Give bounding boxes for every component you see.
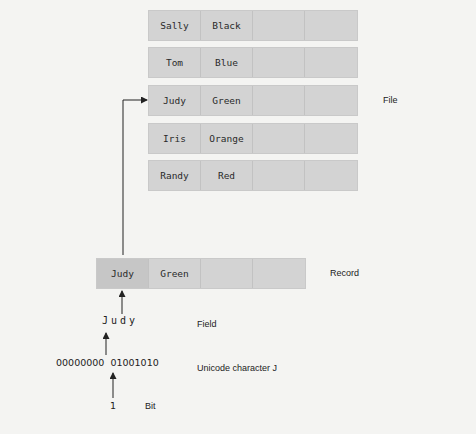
record-to-file-arrow bbox=[123, 100, 147, 255]
connector-arrows bbox=[0, 0, 476, 434]
